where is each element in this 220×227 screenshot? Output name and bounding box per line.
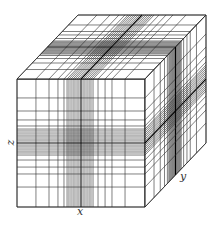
grid-cube-figure: z x y <box>0 0 220 227</box>
front-face-grid <box>17 79 145 207</box>
grid-cube-svg <box>0 0 220 227</box>
x-axis-label: x <box>77 206 83 217</box>
z-axis-label: z <box>5 140 16 146</box>
y-axis-label: y <box>180 171 186 182</box>
